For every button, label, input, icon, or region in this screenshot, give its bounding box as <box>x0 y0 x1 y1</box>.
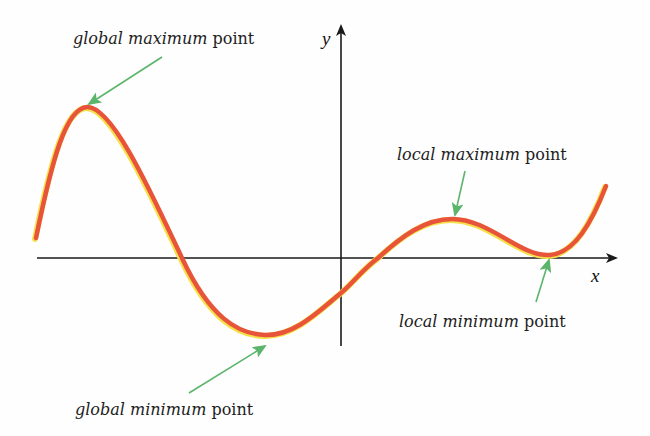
curve-highlight <box>35 108 605 336</box>
local-min-label-rest: point <box>519 312 566 331</box>
local-min-label-emph: local minimum <box>399 312 519 331</box>
y-axis-label: y <box>322 29 330 48</box>
x-axis-label: x <box>591 266 599 285</box>
function-curve <box>36 107 606 335</box>
global-min-arrow <box>189 346 265 393</box>
global-max-label-rest: point <box>207 29 254 48</box>
global-min-label-rest: point <box>206 400 253 419</box>
diagram-canvas: y x global maximum point local maximum p… <box>0 0 650 436</box>
local-max-label: local maximum point <box>397 147 567 163</box>
local-min-arrow <box>536 260 549 302</box>
diagram-svg <box>0 0 650 436</box>
local-max-label-emph: local maximum <box>397 145 520 164</box>
local-max-arrow <box>455 171 465 215</box>
local-max-label-rest: point <box>520 145 567 164</box>
global-max-label-emph: global maximum <box>73 29 207 48</box>
global-max-arrow <box>89 57 162 104</box>
global-max-label: global maximum point <box>73 31 254 47</box>
global-min-label-emph: global minimum <box>75 400 206 419</box>
local-min-label: local minimum point <box>399 314 566 330</box>
global-min-label: global minimum point <box>75 402 253 418</box>
